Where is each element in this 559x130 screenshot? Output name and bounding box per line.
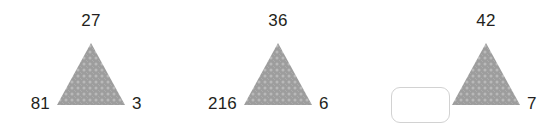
triangle-right-value: 6	[319, 95, 329, 112]
triangle-top-value: 27	[81, 12, 100, 29]
triangle-left-value: 81	[31, 95, 50, 112]
triangle-left-value: 216	[208, 95, 237, 112]
number-triangle-problem-3: 42 7	[376, 0, 559, 130]
number-triangle-problem-2: 36 216 6	[186, 0, 376, 130]
triangle-right-value: 3	[132, 95, 142, 112]
shaded-triangle	[244, 43, 312, 105]
shaded-triangle	[57, 43, 125, 105]
number-triangle-worksheet: 27 81 3 36 216 6	[0, 0, 559, 130]
triangle-top-value: 36	[268, 12, 287, 29]
triangle-left-answer-input[interactable]	[391, 87, 450, 123]
number-triangle-problem-1: 27 81 3	[0, 0, 186, 130]
triangle-top-value: 42	[476, 12, 495, 29]
triangle-right-value: 7	[527, 95, 537, 112]
shaded-triangle	[452, 43, 520, 105]
